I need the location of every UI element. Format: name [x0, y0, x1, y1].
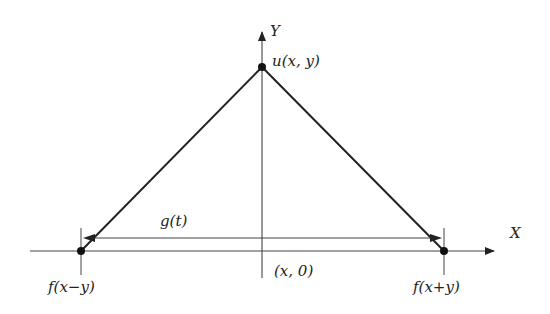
apex-point: [258, 63, 266, 71]
right-characteristic: [262, 67, 444, 251]
left-point-label: f(x−y): [47, 278, 95, 296]
y-axis-label: Y: [270, 22, 282, 40]
right-point-label: f(x+y): [412, 278, 460, 296]
right-point: [440, 247, 448, 255]
g-label: g(t): [160, 212, 187, 230]
x-axis-label: X: [509, 224, 522, 242]
left-point: [77, 247, 85, 255]
apex-label: u(x, y): [272, 52, 320, 70]
characteristic-triangle-diagram: Y X u(x, y) g(t) f(x−y) f(x+y) (x, 0): [0, 0, 550, 314]
foot-label: (x, 0): [274, 262, 313, 280]
